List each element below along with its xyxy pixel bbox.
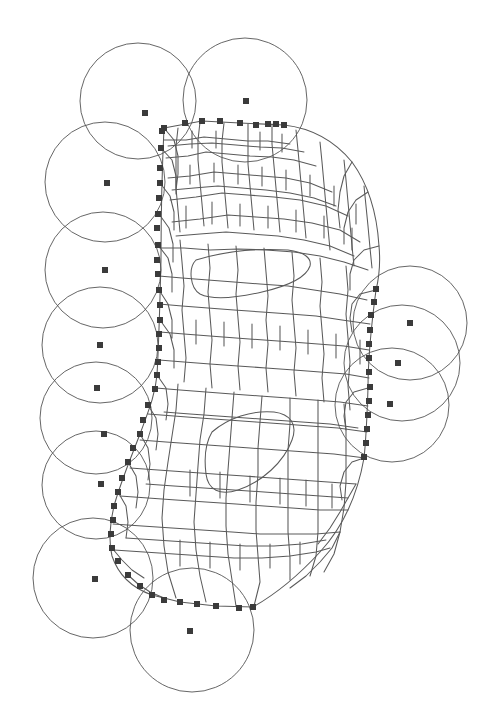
- boundary-seed-marker: [161, 597, 167, 603]
- boundary-seed-marker: [368, 312, 374, 318]
- boundary-seed-marker: [109, 545, 115, 551]
- boundary-seed-marker: [250, 604, 256, 610]
- boundary-seed-marker: [154, 225, 160, 231]
- boundary-seed-marker: [155, 242, 161, 248]
- boundary-seed-marker: [253, 122, 259, 128]
- boundary-seed-marker: [366, 369, 372, 375]
- boundary-seed-marker: [182, 120, 188, 126]
- boundary-seed-marker: [137, 583, 143, 589]
- boundary-seed-marker: [158, 145, 164, 151]
- boundary-seed-marker: [367, 327, 373, 333]
- boundary-seed-marker: [125, 459, 131, 465]
- boundary-seed-marker: [156, 287, 162, 293]
- disc-centre-marker: [387, 401, 393, 407]
- disc-centre-marker: [101, 431, 107, 437]
- boundary-seed-marker: [361, 454, 367, 460]
- disc-centre-marker: [243, 98, 249, 104]
- boundary-seed-marker: [177, 599, 183, 605]
- boundary-seed-marker: [156, 345, 162, 351]
- voronoi-mesh-figure: [0, 0, 493, 723]
- disc-centre-marker: [92, 576, 98, 582]
- boundary-seed-marker: [115, 558, 121, 564]
- boundary-seed-marker: [154, 372, 160, 378]
- boundary-seed-marker: [110, 517, 116, 523]
- boundary-seed-marker: [119, 475, 125, 481]
- boundary-seed-marker: [125, 572, 131, 578]
- boundary-seed-marker: [157, 180, 163, 186]
- boundary-seed-marker: [273, 121, 279, 127]
- boundary-seed-marker: [213, 603, 219, 609]
- disc-centre-marker: [395, 360, 401, 366]
- disc-centre-marker: [94, 385, 100, 391]
- boundary-seed-marker: [265, 121, 271, 127]
- boundary-seed-marker: [366, 341, 372, 347]
- disc-centre-marker: [142, 110, 148, 116]
- disc-centre-marker: [102, 267, 108, 273]
- boundary-seed-marker: [365, 412, 371, 418]
- boundary-seed-marker: [364, 426, 370, 432]
- figure-root: [0, 0, 493, 723]
- boundary-seed-marker: [111, 503, 117, 509]
- boundary-seed-marker: [156, 195, 162, 201]
- boundary-seed-marker: [115, 489, 121, 495]
- boundary-seed-marker: [155, 359, 161, 365]
- boundary-seed-marker: [373, 286, 379, 292]
- boundary-seed-marker: [367, 384, 373, 390]
- boundary-seed-marker: [363, 440, 369, 446]
- disc-centre-marker: [98, 481, 104, 487]
- disc-centre-marker: [104, 180, 110, 186]
- boundary-seed-marker: [152, 386, 158, 392]
- boundary-seed-marker: [157, 165, 163, 171]
- boundary-seed-marker: [281, 122, 287, 128]
- boundary-seed-marker: [145, 402, 151, 408]
- disc-centre-marker: [187, 628, 193, 634]
- boundary-seed-marker: [366, 398, 372, 404]
- boundary-seed-marker: [156, 331, 162, 337]
- boundary-seed-marker: [236, 605, 242, 611]
- boundary-seed-marker: [155, 271, 161, 277]
- disc-centre-marker: [407, 320, 413, 326]
- boundary-seed-marker: [159, 128, 165, 134]
- boundary-seed-marker: [154, 257, 160, 263]
- boundary-seed-marker: [155, 211, 161, 217]
- boundary-seed-marker: [137, 431, 143, 437]
- boundary-seed-marker: [157, 302, 163, 308]
- boundary-seed-marker: [149, 592, 155, 598]
- boundary-seed-marker: [140, 417, 146, 423]
- disc-centre-marker: [97, 342, 103, 348]
- boundary-seed-marker: [108, 531, 114, 537]
- boundary-seed-marker: [371, 299, 377, 305]
- boundary-seed-marker: [130, 445, 136, 451]
- boundary-seed-marker: [199, 118, 205, 124]
- boundary-seed-marker: [194, 601, 200, 607]
- boundary-seed-marker: [217, 118, 223, 124]
- boundary-seed-marker: [157, 317, 163, 323]
- boundary-seed-marker: [366, 355, 372, 361]
- figure-background: [0, 0, 493, 723]
- boundary-seed-marker: [237, 120, 243, 126]
